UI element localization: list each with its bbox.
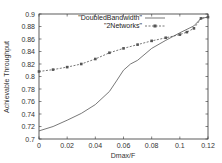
x-tick-label: 0 <box>37 142 41 149</box>
y-tick-label: 0.7 <box>25 136 35 143</box>
y-tick-label: 0.76 <box>21 98 35 105</box>
data-point-marker <box>52 68 55 71</box>
x-tick-label: 0.06 <box>117 142 131 149</box>
y-tick-label: 0.86 <box>21 36 35 43</box>
x-tick-label: 0.02 <box>60 142 74 149</box>
y-tick-label: 0.8 <box>25 73 35 80</box>
y-tick-labels: 0.70.720.740.760.780.80.820.840.860.880.… <box>21 11 35 143</box>
legend: "DoubledBandwidth" "2Networks" <box>78 14 165 29</box>
data-point-marker <box>207 16 210 19</box>
x-tick-label: 0.08 <box>145 142 159 149</box>
y-tick-label: 0.84 <box>21 48 35 55</box>
legend-label-2networks: "2Networks" <box>104 22 143 29</box>
y-axis-label: Achievable Throughput <box>3 41 11 113</box>
x-axis-label: Dmax/F <box>111 152 136 159</box>
data-point-marker <box>179 33 182 36</box>
x-tick-label: 0.04 <box>89 142 103 149</box>
data-point-marker <box>136 43 139 46</box>
data-point-marker <box>186 31 189 34</box>
data-point-marker <box>38 70 41 73</box>
data-point-marker <box>150 40 153 43</box>
x-tick-labels: 00.020.040.060.080.10.12 <box>37 142 215 149</box>
line-chart: 0.70.720.740.760.780.80.820.840.860.880.… <box>0 0 222 163</box>
data-point-marker <box>66 66 69 69</box>
y-tick-label: 0.82 <box>21 61 35 68</box>
data-point-marker <box>200 17 203 20</box>
data-point-marker <box>164 36 167 39</box>
legend-label-doubledbandwidth: "DoubledBandwidth" <box>78 14 142 21</box>
axis-ticks <box>39 14 208 139</box>
y-tick-label: 0.72 <box>21 123 35 130</box>
y-tick-label: 0.74 <box>21 111 35 118</box>
data-point-marker <box>94 58 97 61</box>
plot-frame <box>39 14 208 139</box>
series-layer <box>38 16 210 131</box>
series-line-0 <box>39 17 208 131</box>
y-tick-label: 0.88 <box>21 23 35 30</box>
y-tick-label: 0.9 <box>25 11 35 18</box>
x-tick-label: 0.12 <box>201 142 215 149</box>
data-point-marker <box>80 63 83 66</box>
legend-marker-2networks <box>154 25 157 28</box>
data-point-marker <box>122 47 125 50</box>
data-point-marker <box>193 27 196 30</box>
y-tick-label: 0.78 <box>21 86 35 93</box>
data-point-marker <box>108 51 111 54</box>
x-tick-label: 0.1 <box>175 142 185 149</box>
